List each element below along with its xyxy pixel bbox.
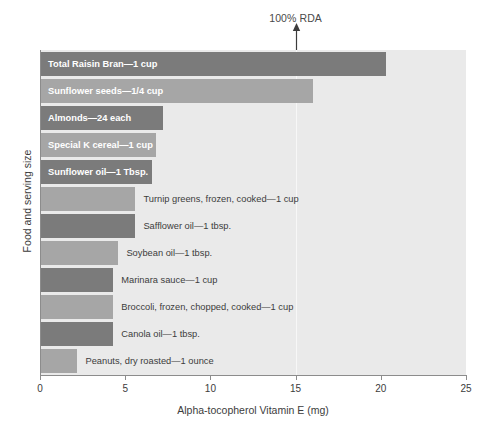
x-axis-tick-label: 5 — [110, 383, 140, 394]
x-axis-tick-label: 15 — [281, 383, 311, 394]
bar-row: Turnip greens, frozen, cooked—1 cup — [40, 187, 466, 211]
bar-row: Marinara sauce—1 cup — [40, 268, 466, 292]
bar — [40, 322, 113, 346]
bar-row: Sunflower seeds—1/4 cup — [40, 79, 466, 103]
rda-arrow-up-icon — [292, 23, 301, 51]
bar-label: Almonds—24 each — [48, 106, 131, 130]
bar-label: Total Raisin Bran—1 cup — [48, 52, 157, 76]
bar-row: Total Raisin Bran—1 cup — [40, 52, 466, 76]
bar-label: Special K cereal—1 cup — [48, 133, 153, 157]
vitamin-e-bar-chart: 100% RDA Total Raisin Bran—1 cupSunflowe… — [0, 0, 484, 428]
x-axis-line — [40, 375, 466, 376]
bar-label: Broccoli, frozen, chopped, cooked—1 cup — [121, 295, 293, 319]
x-axis-tick-label: 20 — [366, 383, 396, 394]
bar — [40, 214, 135, 238]
bar-row: Special K cereal—1 cup — [40, 133, 466, 157]
x-axis-title: Alpha-tocopherol Vitamin E (mg) — [40, 404, 466, 416]
x-axis-tick-label: 0 — [25, 383, 55, 394]
bar — [40, 349, 77, 373]
x-axis-tick — [210, 375, 211, 380]
bar-label: Turnip greens, frozen, cooked—1 cup — [143, 187, 298, 211]
x-axis-tick-label: 10 — [195, 383, 225, 394]
bar — [40, 241, 118, 265]
bar-row: Soybean oil—1 tbsp. — [40, 241, 466, 265]
bar-row: Sunflower oil—1 Tbsp. — [40, 160, 466, 184]
bar — [40, 295, 113, 319]
bar-label: Sunflower oil—1 Tbsp. — [48, 160, 148, 184]
y-axis-line — [40, 50, 41, 376]
bar-row: Peanuts, dry roasted—1 ounce — [40, 349, 466, 373]
y-axis-title: Food and serving size — [21, 126, 33, 276]
bar-label: Peanuts, dry roasted—1 ounce — [85, 349, 213, 373]
plot-area: Total Raisin Bran—1 cupSunflower seeds—1… — [40, 50, 466, 375]
x-axis-tick-label: 25 — [451, 383, 481, 394]
x-axis-tick — [125, 375, 126, 380]
bar-row: Canola oil—1 tbsp. — [40, 322, 466, 346]
bar-row: Broccoli, frozen, chopped, cooked—1 cup — [40, 295, 466, 319]
bar-label: Safflower oil—1 tbsp. — [143, 214, 231, 238]
x-axis-tick — [296, 375, 297, 380]
bar-row: Almonds—24 each — [40, 106, 466, 130]
x-axis-tick — [466, 375, 467, 380]
x-axis-tick — [40, 375, 41, 380]
x-axis-tick — [381, 375, 382, 380]
bar — [40, 268, 113, 292]
bar-label: Marinara sauce—1 cup — [121, 268, 217, 292]
bar-label: Canola oil—1 tbsp. — [121, 322, 200, 346]
bar-label: Sunflower seeds—1/4 cup — [48, 79, 163, 103]
bar-label: Soybean oil—1 tbsp. — [126, 241, 212, 265]
bar-row: Safflower oil—1 tbsp. — [40, 214, 466, 238]
bar — [40, 187, 135, 211]
